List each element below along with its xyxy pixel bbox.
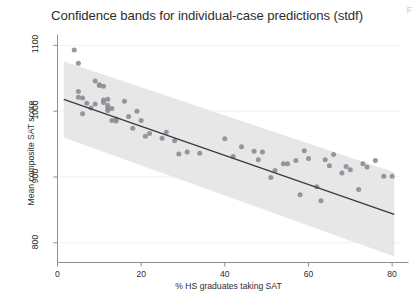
data-point — [293, 158, 298, 163]
confidence-band — [64, 61, 394, 256]
data-point — [143, 134, 148, 139]
data-point — [72, 47, 77, 52]
data-point — [260, 149, 265, 154]
y-tick-label: 800 — [30, 225, 40, 259]
y-tick-label: 1000 — [30, 93, 40, 127]
data-point — [344, 164, 349, 169]
data-point — [252, 149, 257, 154]
data-point — [130, 126, 135, 131]
data-point — [365, 165, 370, 170]
data-point — [323, 157, 328, 162]
data-point — [93, 101, 98, 106]
data-point — [360, 161, 365, 166]
x-axis-title: % HS graduates taking SAT — [57, 281, 400, 291]
data-point — [97, 83, 102, 88]
data-point — [176, 151, 181, 156]
data-point — [101, 84, 106, 89]
data-point — [134, 109, 139, 114]
data-point — [126, 114, 131, 119]
data-point — [302, 148, 307, 153]
data-point — [84, 101, 89, 106]
data-point — [239, 144, 244, 149]
data-point — [298, 192, 303, 197]
data-point — [356, 187, 361, 192]
data-point — [80, 96, 85, 101]
data-point — [76, 89, 81, 94]
data-point — [101, 100, 106, 105]
data-point — [197, 151, 202, 156]
data-point — [122, 99, 127, 104]
data-point — [139, 118, 144, 123]
data-point — [160, 136, 165, 141]
data-point — [348, 167, 353, 172]
data-point — [285, 161, 290, 166]
data-point — [76, 95, 81, 100]
data-point — [76, 61, 81, 66]
data-point — [80, 111, 85, 116]
data-point — [390, 174, 395, 179]
y-tick-label: 1100 — [30, 27, 40, 61]
data-point — [114, 119, 119, 124]
y-tick-label: 900 — [30, 159, 40, 193]
confidence-band-area — [64, 61, 394, 256]
data-point — [339, 171, 344, 176]
data-point — [319, 198, 324, 203]
data-point — [185, 149, 190, 154]
data-point — [147, 131, 152, 136]
data-point — [331, 152, 336, 157]
x-tick-label: 20 — [126, 269, 156, 279]
x-tick-label: 80 — [377, 269, 407, 279]
data-point — [105, 97, 110, 102]
data-point — [222, 136, 227, 141]
x-tick-label: 40 — [210, 269, 240, 279]
data-point — [256, 157, 261, 162]
data-point — [109, 106, 114, 111]
chart-figure: Confidence bands for individual-case pre… — [0, 0, 414, 305]
data-point — [327, 163, 332, 168]
x-tick-label: 0 — [43, 269, 73, 279]
scatter-plot — [0, 0, 414, 305]
x-tick-label: 60 — [293, 269, 323, 279]
data-point — [306, 156, 311, 161]
data-point — [381, 174, 386, 179]
data-point — [268, 175, 273, 180]
data-point — [93, 78, 98, 83]
data-point — [373, 158, 378, 163]
